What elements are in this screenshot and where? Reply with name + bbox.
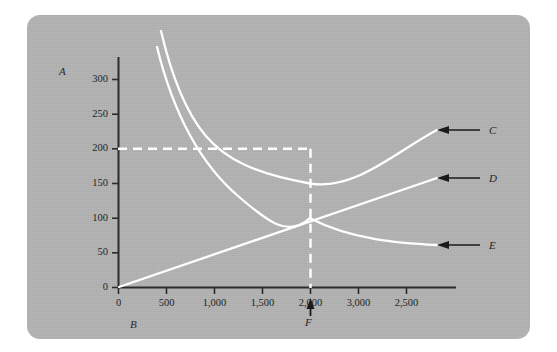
y-axis-title: A bbox=[59, 65, 66, 77]
marker-label-f: F bbox=[305, 316, 312, 328]
leader-arrow-c bbox=[437, 126, 480, 134]
series-label-d: D bbox=[489, 172, 497, 184]
series-label-c: C bbox=[489, 124, 496, 136]
x-tick-label-1000: 1,000 bbox=[195, 297, 235, 308]
y-tick-label-200: 200 bbox=[72, 142, 108, 153]
y-tick-label-250: 250 bbox=[72, 108, 108, 119]
y-tick-label-50: 50 bbox=[72, 246, 108, 257]
x-tick-label-500: 500 bbox=[147, 297, 187, 308]
x-axis-title: B bbox=[130, 318, 137, 330]
x-tick-label-2500: 2,500 bbox=[387, 297, 427, 308]
x-tick-label-2000: 2,000 bbox=[291, 297, 331, 308]
y-tick-label-100: 100 bbox=[72, 212, 108, 223]
x-tick-label-0: 0 bbox=[99, 297, 139, 308]
x-tick-label-1500: 1,500 bbox=[243, 297, 283, 308]
x-tick-label-3000: 3,000 bbox=[339, 297, 379, 308]
x-axis-ticks bbox=[119, 288, 407, 294]
series-curve-c bbox=[161, 31, 437, 184]
figure-container: A B 0 50 100 150 200 250 300 0 500 1,000… bbox=[0, 0, 557, 352]
leader-arrow-e bbox=[437, 241, 480, 249]
y-tick-label-300: 300 bbox=[72, 73, 108, 84]
series-line-d bbox=[119, 178, 437, 287]
series-curve-e bbox=[157, 47, 437, 245]
y-tick-label-150: 150 bbox=[72, 177, 108, 188]
y-tick-label-0: 0 bbox=[72, 281, 108, 292]
series-label-e: E bbox=[489, 239, 496, 251]
y-axis-ticks bbox=[112, 80, 118, 288]
leader-arrow-d bbox=[437, 174, 480, 182]
